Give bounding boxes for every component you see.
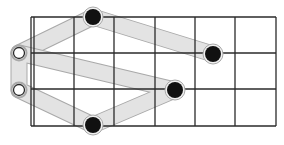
shape-band (19, 17, 213, 54)
open-string-marker-inner (14, 48, 25, 59)
finger-dot (167, 82, 183, 98)
open-string-marker-inner (14, 85, 25, 96)
fretboard-diagram (0, 0, 284, 145)
finger-dot (205, 46, 221, 62)
finger-dot (85, 117, 101, 133)
finger-dot (85, 9, 101, 25)
